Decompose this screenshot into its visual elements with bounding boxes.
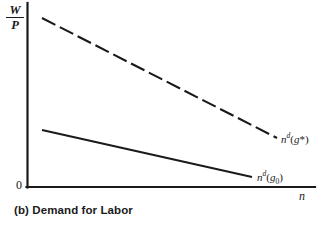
curve-label-nd-gstar: nd(g*) [281, 133, 309, 145]
origin-label: 0 [16, 178, 22, 193]
y-axis-label-denominator: P [5, 19, 25, 32]
curve-label-close-paren: ) [279, 171, 283, 183]
curve-labor-demand-gstar [42, 18, 277, 138]
y-axis-label-numerator: W [5, 4, 25, 17]
x-axis-label: n [299, 189, 305, 204]
figure-caption: (b) Demand for Labor [14, 204, 133, 216]
curve-label-close-paren: ) [305, 133, 309, 145]
curve-labor-demand-g0 [42, 130, 252, 177]
figure-demand-for-labor: W P 0 n nd(g*) nd(g0) (b) Demand for Lab… [0, 0, 321, 225]
plot-area [0, 0, 321, 225]
y-axis-label: W P [5, 4, 25, 32]
curve-label-nd-g0: nd(g0) [257, 171, 283, 183]
